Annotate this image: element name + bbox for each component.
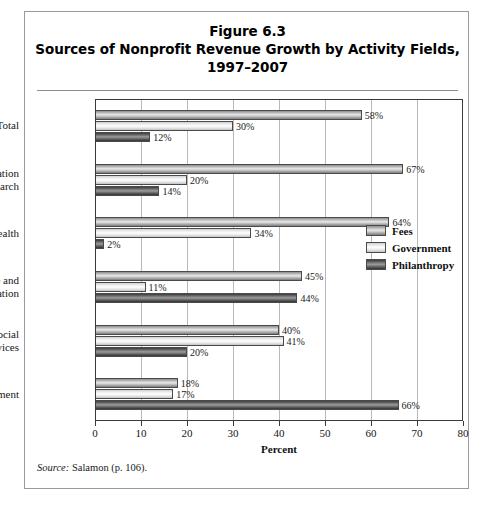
bar-value-label: 20% — [187, 174, 208, 185]
x-tick-label: 30 — [228, 427, 239, 439]
bar-value-label: 40% — [279, 324, 300, 335]
source-keyword: Source: — [37, 462, 69, 473]
category-label: Educationand Research — [0, 167, 19, 193]
bar-value-label: 58% — [362, 109, 383, 120]
bar-fees[interactable] — [95, 271, 302, 281]
legend-label: Philanthropy — [392, 259, 454, 271]
bar-fees[interactable] — [95, 217, 389, 227]
bar-row: 41% — [95, 336, 463, 346]
title-divider — [37, 90, 458, 91]
chart-legend: FeesGovernmentPhilanthropy — [366, 223, 462, 274]
bar-row: 58% — [95, 110, 463, 120]
gridline-40 — [279, 99, 280, 421]
x-axis-title: Percent — [95, 443, 463, 455]
legend-item-government[interactable]: Government — [366, 240, 462, 255]
category-label-line: Social — [0, 328, 19, 341]
category-label: Culture andRecreation — [0, 274, 19, 300]
source-citation: Salamon (p. 106). — [69, 462, 147, 473]
x-tick-label: 50 — [320, 427, 331, 439]
gridline-20 — [187, 99, 188, 421]
x-tick-30 — [233, 421, 234, 426]
gridline-50 — [325, 99, 326, 421]
figure-container: Figure 6.3 Sources of Nonprofit Revenue … — [24, 11, 469, 489]
bar-group: 45%11%44% — [95, 271, 463, 303]
x-tick-label: 80 — [458, 427, 469, 439]
bar-row: 40% — [95, 325, 463, 335]
legend-swatch-government — [366, 242, 386, 253]
bar-value-label: 34% — [251, 228, 272, 239]
bar-value-label: 12% — [150, 131, 171, 142]
x-tick-20 — [187, 421, 188, 426]
legend-item-philanthropy[interactable]: Philanthropy — [366, 257, 462, 272]
bar-fees[interactable] — [95, 325, 279, 335]
bar-value-label: 17% — [173, 389, 194, 400]
bar-government[interactable] — [95, 389, 173, 399]
bar-value-label: 20% — [187, 346, 208, 357]
x-tick-70 — [417, 421, 418, 426]
x-tick-40 — [279, 421, 280, 426]
bar-row: 17% — [95, 389, 463, 399]
title-line-1: Figure 6.3 — [25, 22, 470, 40]
title-line-2: Sources of Nonprofit Revenue Growth by A… — [25, 40, 470, 58]
legend-label: Fees — [392, 225, 413, 237]
category-label-line: Health — [0, 227, 19, 240]
legend-label: Government — [392, 242, 451, 254]
bar-group: 67%20%14% — [95, 164, 463, 196]
source-note: Source: Salamon (p. 106). — [37, 462, 147, 473]
bar-row: 44% — [95, 293, 463, 303]
bar-fees[interactable] — [95, 164, 403, 174]
category-label-line: Recreation — [0, 287, 19, 300]
x-tick-label: 20 — [182, 427, 193, 439]
bar-philanthropy[interactable] — [95, 400, 399, 410]
category-label: Total — [0, 119, 19, 132]
bar-row: 12% — [95, 132, 463, 142]
bar-value-label: 66% — [399, 400, 420, 411]
x-tick-label: 60 — [366, 427, 377, 439]
x-tick-label: 40 — [274, 427, 285, 439]
bar-government[interactable] — [95, 228, 251, 238]
title-line-3: 1997–2007 — [25, 58, 470, 76]
bar-government[interactable] — [95, 336, 284, 346]
bar-value-label: 18% — [178, 378, 199, 389]
x-tick-50 — [325, 421, 326, 426]
category-label-line: Services — [0, 341, 19, 354]
category-label: Environment — [0, 388, 19, 401]
bar-philanthropy[interactable] — [95, 132, 150, 142]
x-tick-0 — [95, 421, 96, 426]
legend-swatch-fees — [366, 225, 386, 236]
bar-government[interactable] — [95, 121, 233, 131]
x-tick-60 — [371, 421, 372, 426]
bar-government[interactable] — [95, 282, 146, 292]
category-axis-labels: TotalEducationand ResearchHealthCulture … — [0, 99, 19, 421]
bar-row: 20% — [95, 175, 463, 185]
bar-philanthropy[interactable] — [95, 186, 159, 196]
bar-value-label: 45% — [302, 270, 323, 281]
bar-philanthropy[interactable] — [95, 239, 104, 249]
bar-philanthropy[interactable] — [95, 293, 297, 303]
bar-row: 14% — [95, 186, 463, 196]
gridline-10 — [141, 99, 142, 421]
bar-value-label: 44% — [297, 292, 318, 303]
x-tick-label: 10 — [136, 427, 147, 439]
legend-item-fees[interactable]: Fees — [366, 223, 462, 238]
x-tick-80 — [463, 421, 464, 426]
x-axis-tick-labels: 01020304050607080 — [95, 427, 463, 443]
bar-value-label: 30% — [233, 120, 254, 131]
bar-row: 20% — [95, 347, 463, 357]
legend-swatch-philanthropy — [366, 259, 386, 270]
bar-fees[interactable] — [95, 378, 178, 388]
category-label-line: Culture and — [0, 274, 19, 287]
bar-value-label: 41% — [284, 335, 305, 346]
bar-row: 18% — [95, 378, 463, 388]
bar-group: 18%17%66% — [95, 378, 463, 410]
category-label-line: Education — [0, 167, 19, 180]
x-tick-label: 70 — [412, 427, 423, 439]
bar-group: 40%41%20% — [95, 325, 463, 357]
bar-row: 11% — [95, 282, 463, 292]
bar-philanthropy[interactable] — [95, 347, 187, 357]
bar-fees[interactable] — [95, 110, 362, 120]
bar-group: 58%30%12% — [95, 110, 463, 142]
bar-government[interactable] — [95, 175, 187, 185]
x-tick-10 — [141, 421, 142, 426]
bar-value-label: 14% — [159, 185, 180, 196]
